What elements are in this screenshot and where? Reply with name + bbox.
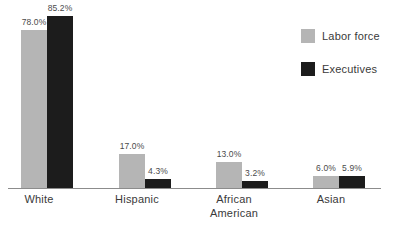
legend-item-labor-force[interactable]: Labor force bbox=[301, 29, 380, 43]
bar-labor-force-white[interactable]: 78.0% bbox=[21, 30, 47, 188]
bar-value-label: 6.0% bbox=[316, 163, 336, 173]
bar-value-label: 17.0% bbox=[120, 141, 145, 151]
chart-legend: Labor force Executives bbox=[301, 29, 380, 76]
legend-swatch-icon bbox=[301, 62, 315, 76]
x-axis-line bbox=[8, 188, 381, 189]
x-tick-label-line: Hispanic bbox=[82, 193, 192, 207]
bar-chart: 78.0% 85.2% 17.0% 4.3% 13.0% 3.2% bbox=[0, 0, 403, 236]
bar-executives-white[interactable]: 85.2% bbox=[47, 16, 73, 188]
bar-executives-african-american[interactable]: 3.2% bbox=[242, 181, 268, 188]
bar-labor-force-hispanic[interactable]: 17.0% bbox=[119, 154, 145, 188]
bar-executives-asian[interactable]: 5.9% bbox=[339, 176, 365, 188]
bar-executives-hispanic[interactable]: 4.3% bbox=[145, 179, 171, 188]
bar-value-label: 85.2% bbox=[48, 3, 73, 13]
x-tick-label-asian: Asian bbox=[276, 193, 386, 207]
bar-group-white: 78.0% 85.2% bbox=[21, 8, 73, 188]
legend-item-executives[interactable]: Executives bbox=[301, 62, 380, 76]
bar-value-label: 3.2% bbox=[245, 168, 265, 178]
x-tick-label-line: African bbox=[179, 193, 289, 207]
bar-value-label: 13.0% bbox=[217, 149, 242, 159]
legend-label: Labor force bbox=[322, 29, 380, 43]
bar-value-label: 5.9% bbox=[342, 163, 362, 173]
bar-value-label: 4.3% bbox=[148, 166, 168, 176]
legend-label: Executives bbox=[322, 62, 377, 76]
bar-group-hispanic: 17.0% 4.3% bbox=[119, 8, 171, 188]
legend-swatch-icon bbox=[301, 29, 315, 43]
bar-value-label: 78.0% bbox=[22, 17, 47, 27]
x-tick-label-white: White bbox=[0, 193, 94, 207]
bar-group-african-american: 13.0% 3.2% bbox=[216, 8, 268, 188]
x-tick-label-hispanic: Hispanic bbox=[82, 193, 192, 207]
bar-labor-force-african-american[interactable]: 13.0% bbox=[216, 162, 242, 188]
x-tick-label-african-american: African American bbox=[179, 193, 289, 220]
x-tick-label-line: White bbox=[0, 193, 94, 207]
bar-labor-force-asian[interactable]: 6.0% bbox=[313, 176, 339, 188]
x-tick-label-line: American bbox=[179, 207, 289, 221]
x-tick-label-line: Asian bbox=[276, 193, 386, 207]
